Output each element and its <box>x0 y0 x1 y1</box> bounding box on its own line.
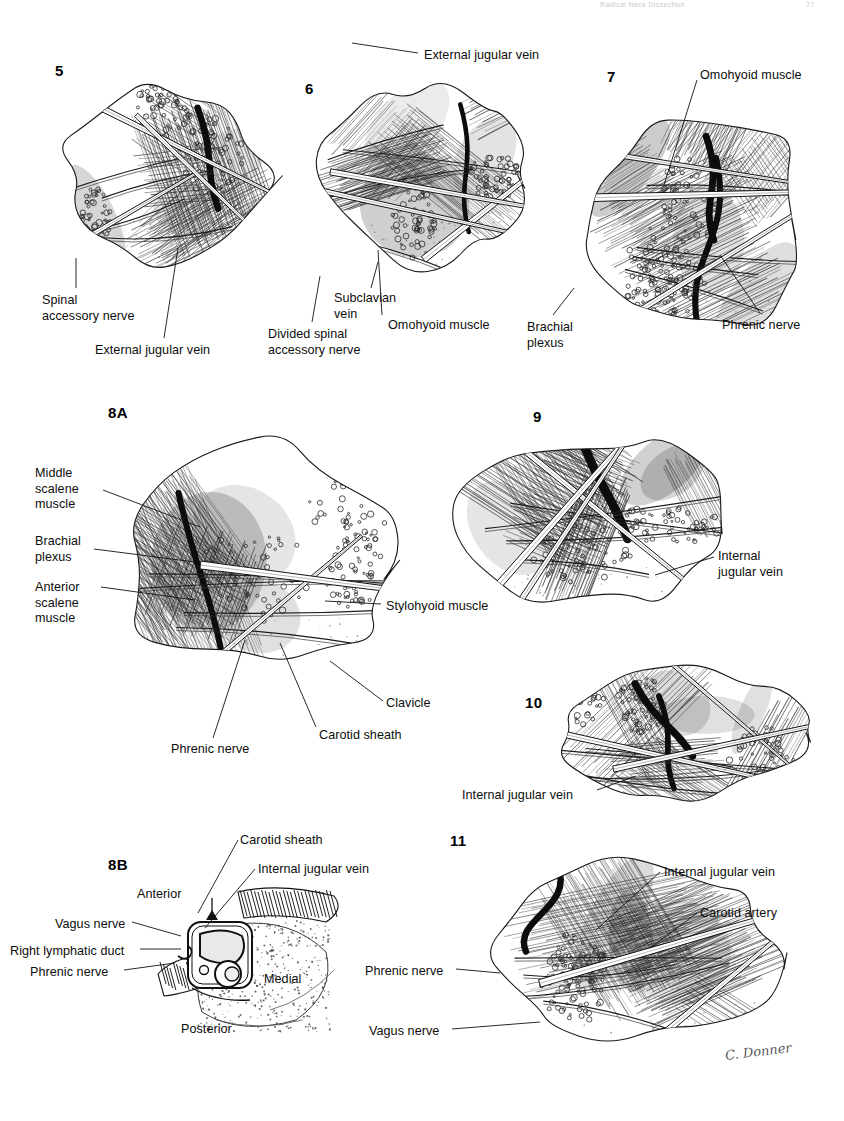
figure-number-10: 10 <box>525 694 542 711</box>
figure-number-8a: 8A <box>108 404 128 421</box>
label-external-jugular-vein: External jugular vein <box>95 343 210 359</box>
running-head: Radical Neck Dissection 77 <box>0 0 844 14</box>
figure-8a-illustration <box>85 415 430 705</box>
label-clavicle: Clavicle <box>386 696 431 712</box>
running-head-page-number: 77 <box>806 1 815 8</box>
label-phrenic-nerve: Phrenic nerve <box>722 318 800 334</box>
figure-number-9: 9 <box>533 408 542 425</box>
label-anterior: Anterior <box>137 887 182 903</box>
figure-number-6: 6 <box>305 80 314 97</box>
label-stylohyoid-muscle: Stylohyoid muscle <box>386 599 488 615</box>
figure-number-11: 11 <box>450 832 466 849</box>
label-carotid-sheath: Carotid sheath <box>240 833 323 849</box>
figure-number-8b: 8B <box>108 856 128 873</box>
label-internal-jugular-vein: Internal jugular vein <box>664 865 775 881</box>
figure-9-illustration <box>440 410 770 630</box>
label-internal-jugular-vein: Internal jugular vein <box>718 549 783 580</box>
label-internal-jugular-vein: Internal jugular vein <box>462 788 573 804</box>
label-anterior-scalene-muscle: Anterior scalene muscle <box>35 580 80 627</box>
label-omohyoid-muscle: Omohyoid muscle <box>388 318 490 334</box>
label-omohyoid-muscle: Omohyoid muscle <box>700 68 802 84</box>
label-posterior: Posterior <box>181 1022 232 1038</box>
label-vagus-nerve: Vagus nerve <box>369 1024 439 1040</box>
label-carotid-sheath: Carotid sheath <box>319 728 402 744</box>
leader-line-6-0 <box>352 43 418 53</box>
label-carotid-artery: Carotid artery <box>700 906 777 922</box>
label-right-lymphatic-duct: Right lymphatic duct <box>10 944 124 960</box>
atlas-page: Radical Neck Dissection 77 5Spinal acces… <box>0 0 844 1121</box>
label-internal-jugular-vein: Internal jugular vein <box>258 862 369 878</box>
figure-number-5: 5 <box>55 62 64 79</box>
label-spinal-accessory-nerve: Spinal accessory nerve <box>42 293 134 324</box>
label-phrenic-nerve: Phrenic nerve <box>30 965 108 981</box>
figure-number-7: 7 <box>607 68 616 85</box>
label-phrenic-nerve: Phrenic nerve <box>365 964 443 980</box>
label-vagus-nerve: Vagus nerve <box>55 917 125 933</box>
figure-6-illustration <box>300 60 555 290</box>
label-medial: Medial <box>264 972 301 988</box>
label-subclavian-vein: Subclavian vein <box>334 291 396 322</box>
label-middle-scalene-muscle: Middle scalene muscle <box>35 466 79 513</box>
running-head-title: Radical Neck Dissection <box>600 1 685 8</box>
figure-5-illustration <box>40 68 290 283</box>
label-brachial-plexus: Brachial plexus <box>527 320 573 351</box>
label-divided-spinal-accessory-nerve: Divided spinal accessory nerve <box>268 327 360 358</box>
label-external-jugular-vein: External jugular vein <box>424 48 539 64</box>
label-phrenic-nerve: Phrenic nerve <box>171 742 249 758</box>
label-brachial-plexus: Brachial plexus <box>35 534 81 565</box>
